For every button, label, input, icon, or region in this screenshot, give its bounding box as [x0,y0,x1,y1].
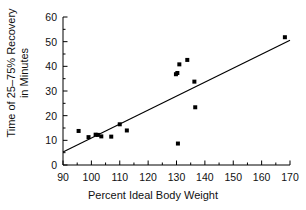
x-tick-label: 130 [168,171,186,183]
y-axis-label-line1: Time of 25–75% Recovery [5,8,17,137]
y-tick-label: 10 [33,134,57,146]
y-axis-label-line2: in Minutes [18,0,31,153]
x-axis-label: Percent Ideal Body Weight [0,189,306,201]
x-tick-label: 170 [281,171,299,183]
x-tick-label: 100 [83,171,101,183]
y-tick-label: 50 [33,36,57,48]
x-tick-label: 140 [196,171,214,183]
y-tick-label: 30 [33,85,57,97]
y-tick-label: 0 [33,159,57,171]
data-markers [77,35,287,145]
x-tick-label: 110 [111,171,128,183]
y-tick-label: 60 [33,11,57,23]
x-tick-label: 150 [224,171,242,183]
y-axis-label: Time of 25–75% Recovery in Minutes [5,0,31,153]
scatter-chart-figure: 901001101201301401501601700102030405060 … [0,0,306,210]
x-tick-label: 160 [253,171,271,183]
x-tick-label: 120 [139,171,157,183]
y-tick-label: 20 [33,110,57,122]
y-tick-label: 40 [33,60,57,72]
x-tick-label: 90 [57,171,69,183]
